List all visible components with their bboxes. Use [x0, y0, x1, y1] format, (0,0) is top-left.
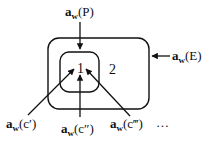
label-aw-c2: aw(c″): [61, 121, 94, 138]
diagram-canvas: 1 2 aw(P) aw(E) aw(c′) aw(c″) aw(c‴) …: [0, 0, 217, 143]
outer-region-label: 2: [109, 62, 116, 77]
label-aw-p: aw(P): [65, 4, 94, 21]
ellipsis: …: [156, 115, 169, 130]
label-aw-c3: aw(c‴): [110, 116, 143, 133]
label-aw-e: aw(E): [172, 48, 202, 65]
label-aw-c1: aw(c′): [6, 116, 36, 133]
inner-region-label: 1: [77, 61, 84, 76]
